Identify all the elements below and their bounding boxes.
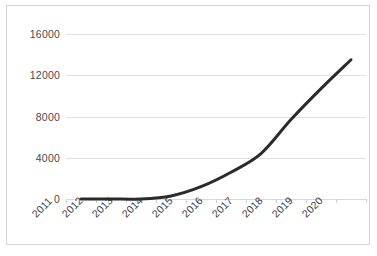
line-series-1 (81, 60, 351, 199)
series-layer (0, 0, 377, 256)
chart-container: 16000 12000 8000 4000 0 2011 2012 2013 2… (0, 0, 377, 256)
